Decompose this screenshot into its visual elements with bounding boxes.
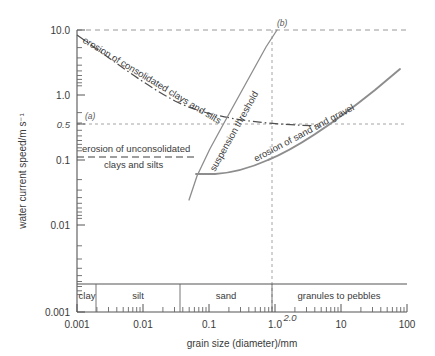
curve-label-consolidated: erosion of consolidated clays and silts <box>81 34 224 126</box>
x-axis-ticks <box>77 304 407 312</box>
y-axis-ticks <box>77 30 85 312</box>
y-tick-label-01: 0.1 <box>56 155 70 166</box>
y-tick-label-10: 10.0 <box>51 25 71 36</box>
x-tick-label-0001: 0.001 <box>64 319 89 330</box>
x-tick-label-10: 10 <box>335 319 347 330</box>
curve-label-unconsolidated-line2: clays and silts <box>104 159 163 170</box>
category-label-clay: clay <box>79 290 96 301</box>
x-axis-title: grain size (diameter)/mm <box>187 338 298 349</box>
category-label-sand: sand <box>216 290 237 301</box>
curve-label-suspension: suspension threshold <box>207 89 260 173</box>
y-tick-label-1: 1.0 <box>56 90 70 101</box>
category-label-silt: silt <box>132 290 144 301</box>
y-axis-title: water current speed/m s⁻¹ <box>17 113 28 230</box>
x-tick-label-001: 0.01 <box>133 319 153 330</box>
x-tick-label-20: 2.0 <box>282 312 297 323</box>
annotation-b: (b) <box>277 18 288 28</box>
y-tick-label-0001: 0.001 <box>45 307 70 318</box>
x-tick-label-01: 0.1 <box>202 319 216 330</box>
category-label-granules: granules to pebbles <box>298 290 381 301</box>
x-tick-label-1: 1.0 <box>268 319 282 330</box>
curve-label-unconsolidated-line1: erosion of unconsolidated <box>82 143 190 154</box>
y-tick-label-05: 0.5 <box>57 119 71 130</box>
annotation-a: (a) <box>85 111 96 121</box>
y-tick-label-001: 0.01 <box>51 220 71 231</box>
grain-category-band: clay silt sand granules to pebbles <box>79 284 381 312</box>
curve-erosion-sand-gravel <box>196 69 400 174</box>
curve-label-sand-gravel: erosion of sand and gravel <box>252 101 356 163</box>
x-tick-label-100: 100 <box>399 319 416 330</box>
hjulstrom-diagram: 10.0 1.0 0.5 0.1 0.01 0.001 water curren… <box>0 0 435 356</box>
